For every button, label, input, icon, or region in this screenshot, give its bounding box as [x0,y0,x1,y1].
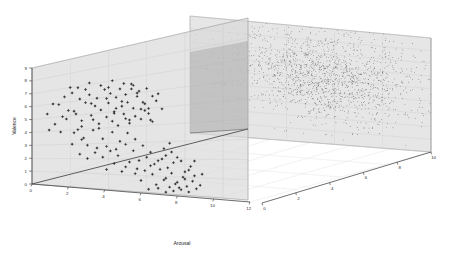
scatter-marker [370,59,371,60]
scatter-marker [428,79,429,80]
scatter-marker [144,109,146,111]
scatter-marker [317,64,318,65]
scatter-marker [288,27,289,28]
scatter-marker [346,66,347,67]
scatter-marker [298,87,299,88]
scatter-marker [303,133,304,134]
scatter-marker [389,41,390,42]
scatter-marker [330,107,331,108]
scatter-marker [308,91,309,92]
x-tick-label: 12 [246,206,251,211]
scatter-marker [273,109,274,110]
scatter-marker [360,80,361,81]
scatter-marker [260,53,261,54]
scatter-marker [384,50,385,51]
scatter-marker [341,82,342,83]
scatter-marker [285,107,286,108]
scatter-marker [370,76,371,77]
scatter-marker [422,107,423,108]
scatter-marker [363,72,364,73]
scatter-marker [251,55,252,56]
scatter-marker [332,89,333,90]
scatter-marker [316,88,317,89]
scatter-marker [279,65,280,66]
scatter-marker [385,103,386,104]
scatter-marker [254,95,255,96]
scatter-marker [146,156,148,158]
scatter-marker [301,99,302,100]
scatter-marker [319,76,320,77]
scatter-marker [325,75,326,76]
scatter-marker [269,78,270,79]
scatter-marker [405,145,406,146]
scatter-marker [317,57,318,58]
scatter-marker [79,153,81,155]
scatter-marker [309,53,310,54]
scatter-marker [267,81,268,82]
scatter-marker [286,67,287,68]
scatter-marker [312,88,313,89]
scatter-marker [284,59,285,60]
scatter-marker [322,81,323,82]
scatter-marker [313,64,314,65]
scatter-marker [300,80,301,81]
scatter-marker [305,116,306,117]
scatter-marker [106,98,108,100]
scatter-marker [323,90,324,91]
scatter-marker [46,113,48,115]
scatter-marker [281,103,282,104]
scatter-marker [308,72,309,73]
scatter-marker [269,98,270,99]
scatter-marker [413,56,414,57]
scatter-marker [258,95,259,96]
scatter-marker [270,44,271,45]
scatter-marker [259,66,260,67]
scatter-marker [317,104,318,105]
scatter-marker [323,63,324,64]
scatter-marker [311,54,312,55]
scatter-marker [338,39,339,40]
scatter-marker [387,74,388,75]
scatter-marker [354,112,355,113]
scatter-marker [348,90,349,91]
scatter-marker [295,80,296,81]
scatter-marker [290,62,291,63]
scatter-marker [319,59,320,60]
scatter-marker [342,75,343,76]
scatter-marker [259,56,260,57]
scatter-marker [356,107,357,108]
scatter-marker [138,160,140,162]
scatter-marker [325,110,326,111]
scatter-marker [136,168,138,170]
scatter-marker [119,88,121,90]
scatter-marker [314,76,315,77]
scatter-marker [346,68,347,69]
scatter-marker [365,104,366,105]
scatter-marker [376,75,377,76]
scatter-marker [322,124,323,125]
scatter-marker [337,30,338,31]
scatter-marker [316,87,317,88]
scatter-marker [411,69,412,70]
scatter-marker [366,89,367,90]
scatter-marker [336,56,337,57]
scatter-marker [296,92,297,93]
scatter-marker [326,91,327,92]
scatter-marker [289,64,290,65]
scatter-marker [364,101,365,102]
scatter-marker [150,165,152,167]
scatter-marker [368,83,369,84]
scatter-marker [292,71,293,72]
scatter-marker [312,63,313,64]
scatter-marker [345,51,346,52]
scatter-marker [121,100,123,102]
scatter-marker [358,67,359,68]
scatter-marker [265,62,266,63]
scatter-marker [311,62,312,63]
scatter-marker [406,76,407,77]
scatter-marker [253,37,254,38]
scatter-marker [115,96,117,98]
scatter-marker [352,74,353,75]
scatter-marker [335,63,336,64]
scatter-marker [334,41,335,42]
